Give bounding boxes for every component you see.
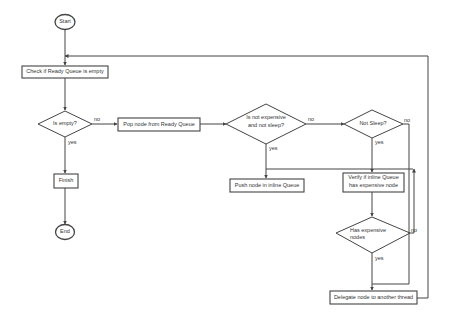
is-empty-label: Is empty? bbox=[40, 119, 90, 129]
verify-inline-label-2: has expensive node bbox=[343, 182, 404, 190]
not-expensive-yes-label: yes bbox=[269, 145, 278, 151]
not-expensive-no-label: no bbox=[308, 116, 314, 122]
start-label: Start bbox=[55, 17, 75, 27]
not-expensive-label-2: and not sleep? bbox=[236, 122, 296, 130]
finish-label: Finish bbox=[54, 174, 78, 188]
delegate-label: Delegate node to another thread bbox=[330, 291, 417, 304]
pop-node-label: Pop node from Ready Queue bbox=[118, 118, 200, 131]
not-expensive-label-1: Is not expensive bbox=[236, 114, 296, 122]
check-ready-queue-label: Check if Ready Queue is empty bbox=[22, 66, 108, 78]
not-sleep-yes-label: yes bbox=[375, 139, 384, 145]
is-empty-yes-label: yes bbox=[68, 139, 77, 145]
has-expensive-yes-label: yes bbox=[375, 255, 384, 261]
verify-inline-label-1: Verify if inline Queue bbox=[343, 174, 404, 182]
not-sleep-label: Not Sleep? bbox=[350, 119, 396, 129]
not-sleep-no-label: no bbox=[404, 117, 410, 123]
has-expensive-no-label: no bbox=[411, 227, 417, 233]
flowchart-canvas bbox=[0, 0, 450, 319]
end-label: End bbox=[55, 227, 75, 237]
has-expensive-label-2: nodes bbox=[350, 234, 396, 241]
is-empty-no-label: no bbox=[94, 116, 100, 122]
push-inline-label: Push node in inline Queue bbox=[230, 179, 304, 192]
